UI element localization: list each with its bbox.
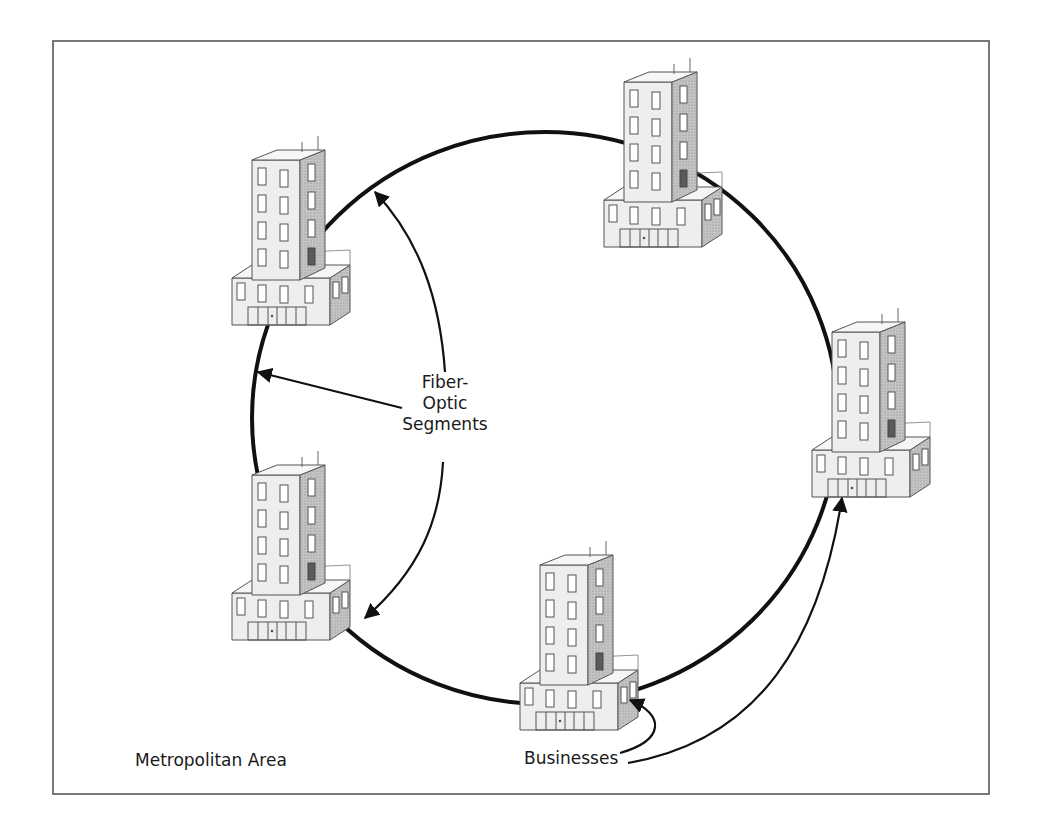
segments-label-line-1: Fiber- [395,372,495,393]
segments-label-line-3: Segments [395,414,495,435]
diagram-canvas [0,0,1044,839]
building-bottom-left [232,451,350,640]
arrow-to-bottom-segment [365,462,443,618]
building-top-right [604,58,722,247]
building-bottom [520,541,638,730]
building-top-left [232,136,350,325]
arrow-to-left-segment [258,372,402,408]
segments-label-line-2: Optic [395,393,495,414]
metropolitan-area-label: Metropolitan Area [135,750,287,771]
arrow-to-top-segment [375,192,445,372]
building-right [812,308,930,497]
businesses-label: Businesses [524,748,618,769]
business-arrows [620,498,842,763]
fiber-optic-segments-label: Fiber- Optic Segments [395,372,495,435]
